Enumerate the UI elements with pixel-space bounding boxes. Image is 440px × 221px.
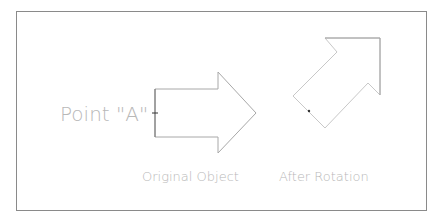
after-rotation-label: After Rotation — [279, 169, 369, 184]
point-a-marker-rotated — [308, 110, 310, 112]
rotation-diagram: Point "A" Original Object After Rotation — [0, 0, 440, 221]
rotated-arrow — [293, 38, 380, 128]
original-object-label: Original Object — [142, 169, 239, 184]
point-a-label: Point "A" — [60, 102, 148, 126]
original-arrow — [155, 72, 256, 153]
